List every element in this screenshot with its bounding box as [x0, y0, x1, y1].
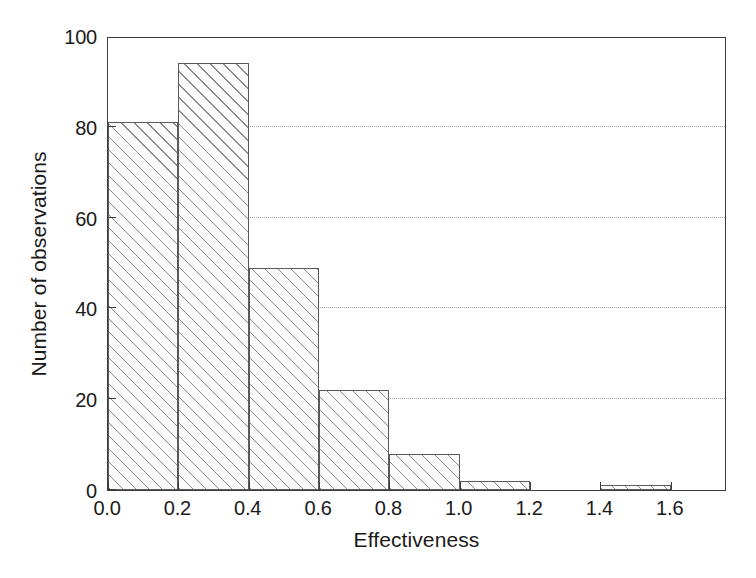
y-tick-labels: 020406080100: [0, 0, 756, 578]
y-tick-label: 60: [39, 207, 97, 230]
y-tick-label: 100: [39, 26, 97, 49]
y-tick-label: 80: [39, 116, 97, 139]
x-tick-label: 0.0: [72, 497, 142, 520]
x-tick-label: 1.2: [494, 497, 564, 520]
x-tick-label: 0.8: [353, 497, 423, 520]
x-tick-label: 0.4: [213, 497, 283, 520]
y-tick-label: 20: [39, 389, 97, 412]
x-tick-label: 0.2: [142, 497, 212, 520]
x-tick-label: 1.4: [564, 497, 634, 520]
histogram-figure: Number of observations 020406080100 0.00…: [0, 0, 756, 578]
x-axis-label: Effectiveness: [107, 528, 726, 552]
y-tick-label: 40: [39, 298, 97, 321]
x-tick-label: 1.6: [635, 497, 705, 520]
x-tick-label: 1.0: [424, 497, 494, 520]
x-tick-label: 0.6: [283, 497, 353, 520]
